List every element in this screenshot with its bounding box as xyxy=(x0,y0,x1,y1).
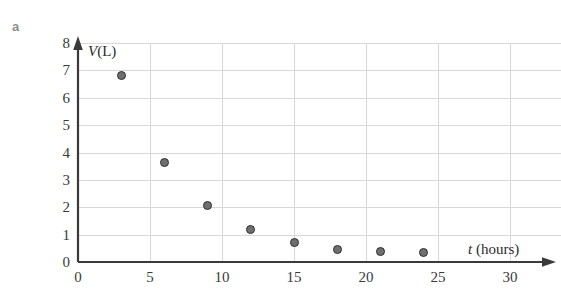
x-tick-label: 20 xyxy=(359,270,374,285)
y-tick-label: 2 xyxy=(48,200,70,215)
y-tick-label: 4 xyxy=(48,145,70,160)
x-axis-title: t (hours) xyxy=(468,242,519,257)
y-tick-label: 0 xyxy=(48,255,70,270)
x-tick-label: 25 xyxy=(431,270,446,285)
y-axis-unit: (L) xyxy=(97,43,116,59)
y-axis-title: V(L) xyxy=(88,44,116,59)
figure-panel-a: a 051015202530 012345678 V(L) t (hours) xyxy=(0,0,561,298)
x-tick-label: 0 xyxy=(74,270,82,285)
x-tick-label: 15 xyxy=(287,270,302,285)
y-tick-label: 1 xyxy=(48,227,70,242)
x-axis-variable: t xyxy=(468,241,472,257)
x-tick-label: 5 xyxy=(146,270,154,285)
y-tick-label: 7 xyxy=(48,63,70,78)
x-tick-label: 30 xyxy=(503,270,518,285)
y-axis-variable: V xyxy=(88,43,97,59)
x-tick-label: 10 xyxy=(215,270,230,285)
y-tick-label: 3 xyxy=(48,172,70,187)
y-tick-label: 5 xyxy=(48,118,70,133)
y-tick-label: 6 xyxy=(48,90,70,105)
y-tick-label: 8 xyxy=(48,36,70,51)
x-axis-unit: (hours) xyxy=(476,241,519,257)
